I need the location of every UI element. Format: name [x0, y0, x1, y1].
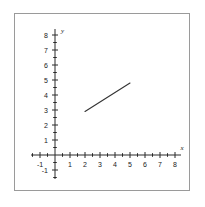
- chart-figure: -112345678-112345678xy: [0, 0, 205, 207]
- y-tick-label: 4: [44, 92, 48, 99]
- x-tick-label: 2: [83, 161, 87, 168]
- x-tick-label: 8: [173, 161, 177, 168]
- x-tick-label: 4: [113, 161, 117, 168]
- x-tick-label: 5: [128, 161, 132, 168]
- y-tick-label: 7: [44, 47, 48, 54]
- y-tick-label: 8: [44, 32, 48, 39]
- y-tick-label: 1: [44, 137, 48, 144]
- x-tick-label: 1: [68, 161, 72, 168]
- data-line-segment: [85, 83, 130, 112]
- y-tick-label: 6: [44, 62, 48, 69]
- y-tick-label: 3: [44, 107, 48, 114]
- y-tick-label: 5: [44, 77, 48, 84]
- coordinate-plane: -112345678-112345678xy: [0, 0, 205, 207]
- y-axis-label: y: [60, 27, 65, 35]
- y-tick-label: -1: [42, 167, 48, 174]
- x-axis-label: x: [179, 144, 184, 152]
- x-tick-label: 3: [98, 161, 102, 168]
- x-tick-label: 7: [158, 161, 162, 168]
- x-tick-label: 6: [143, 161, 147, 168]
- y-tick-label: 2: [44, 122, 48, 129]
